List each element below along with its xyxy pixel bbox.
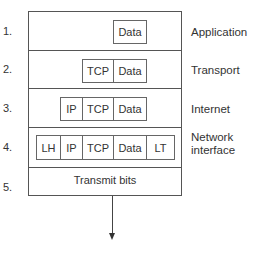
packet-cell-lt: LT: [146, 135, 175, 160]
layer-name-network-line1: Network: [191, 131, 233, 144]
output-arrow-line: [112, 196, 113, 234]
row-divider-2-3: [28, 88, 182, 89]
arrow-down-icon: [109, 233, 115, 240]
row-divider-1-2: [28, 50, 182, 51]
layer-name-application: Application: [191, 26, 247, 39]
row-number-1: 1.: [3, 25, 12, 37]
packet-cell-data: Data: [113, 20, 147, 44]
row-number-3: 3.: [3, 102, 12, 114]
layer-name-internet: Internet: [191, 103, 230, 116]
transmit-bits-label: Transmit bits: [28, 174, 182, 186]
packet-cell-data: Data: [113, 59, 147, 83]
layer-name-transport: Transport: [191, 64, 240, 77]
row-number-2: 2.: [3, 63, 12, 75]
layer-name-network-line2: interface: [191, 144, 235, 157]
packet-cell-tcp: TCP: [82, 135, 114, 160]
row-number-4: 4.: [3, 141, 12, 153]
packet-cell-ip: IP: [60, 135, 83, 160]
packet-cell-ip: IP: [60, 97, 83, 121]
packet-cell-data: Data: [113, 135, 147, 160]
row-divider-3-4: [28, 127, 182, 128]
packet-cell-tcp: TCP: [82, 97, 114, 121]
packet-cell-data: Data: [113, 97, 147, 121]
packet-cell-tcp: TCP: [82, 59, 114, 83]
row-divider-4-5: [28, 167, 182, 168]
packet-cell-lh: LH: [36, 135, 61, 160]
row-number-5: 5.: [3, 181, 12, 193]
